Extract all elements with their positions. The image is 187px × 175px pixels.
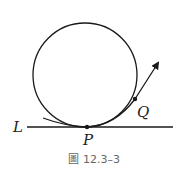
label-p: P [82,131,94,149]
point-p-dot [85,125,89,129]
point-q-dot [133,97,137,101]
figure-caption-prefix: 圖 [68,153,79,166]
label-q: Q [137,103,149,121]
osculating-circle [33,23,137,127]
figure-diagram: L P Q 圖 12.3–3 [0,0,187,175]
label-l: L [12,118,23,136]
figure-caption-number: 12.3–3 [83,153,120,166]
